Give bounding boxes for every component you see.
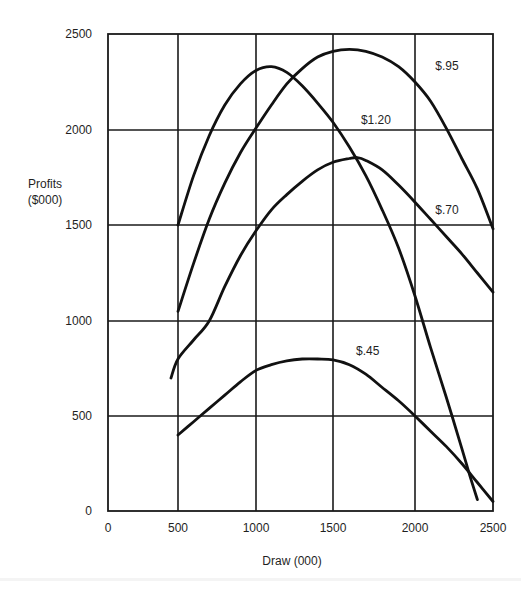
y-tick-label: 2500 — [65, 27, 92, 41]
series-labels: $1.20$.95$.70$.45 — [356, 59, 459, 358]
y-axis-ticks: 05001000150020002500 — [65, 27, 92, 518]
y-tick-label: 1000 — [65, 314, 92, 328]
plot-frame — [108, 34, 493, 511]
series-label-price-95: $.95 — [435, 59, 459, 73]
x-tick-label: 0 — [105, 521, 112, 535]
series-label-price-70: $.70 — [435, 203, 459, 217]
x-tick-label: 500 — [168, 521, 188, 535]
x-tick-label: 1500 — [320, 521, 347, 535]
curve-price-45 — [178, 359, 493, 502]
x-axis-ticks: 05001000150020002500 — [105, 521, 507, 535]
curve-price-70 — [171, 157, 493, 378]
y-tick-label: 0 — [85, 504, 92, 518]
profit-draw-chart: $1.20$.95$.70$.45 05001000150020002500 0… — [0, 0, 521, 602]
y-axis-label-line1: Profits — [28, 177, 62, 191]
x-tick-label: 2500 — [480, 521, 507, 535]
y-tick-label: 1500 — [65, 218, 92, 232]
grid-lines — [108, 34, 493, 511]
x-tick-label: 2000 — [402, 521, 429, 535]
curves — [171, 49, 493, 501]
x-tick-label: 1000 — [243, 521, 270, 535]
series-label-price-45: $.45 — [356, 344, 380, 358]
curve-price-95 — [178, 49, 493, 311]
series-label-price-120: $1.20 — [361, 113, 391, 127]
x-axis-label: Draw (000) — [262, 554, 321, 568]
y-tick-label: 2000 — [65, 123, 92, 137]
y-tick-label: 500 — [72, 409, 92, 423]
y-axis-label-line2: ($000) — [28, 193, 63, 207]
